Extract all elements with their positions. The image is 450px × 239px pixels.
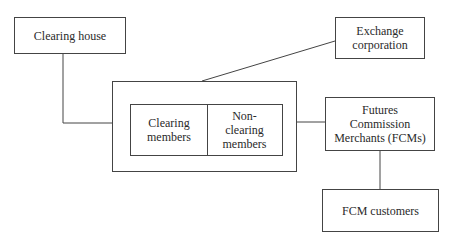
fcms-node: Futures Commission Merchants (FCMs) [325,97,435,151]
exchange-corporation-node: Exchange corporation [335,17,425,59]
edge-clearing-house-to-members [63,53,112,123]
members-inner-box: Clearing members Non- clearing members [130,104,283,156]
members-group-outer-box: Clearing members Non- clearing members [112,81,297,172]
fcms-label: Futures Commission Merchants (FCMs) [334,103,426,145]
fcm-customers-node: FCM customers [322,189,439,232]
edge-exchange-to-members [202,41,335,81]
clearing-members-label: Clearing members [147,116,191,144]
clearing-house-label: Clearing house [34,29,106,43]
clearing-members-cell: Clearing members [131,105,208,155]
fcm-customers-label: FCM customers [342,204,419,218]
non-clearing-members-cell: Non- clearing members [207,105,282,155]
clearing-house-node: Clearing house [14,17,126,54]
exchange-corporation-label: Exchange corporation [352,24,407,52]
non-clearing-members-label: Non- clearing members [223,109,267,151]
